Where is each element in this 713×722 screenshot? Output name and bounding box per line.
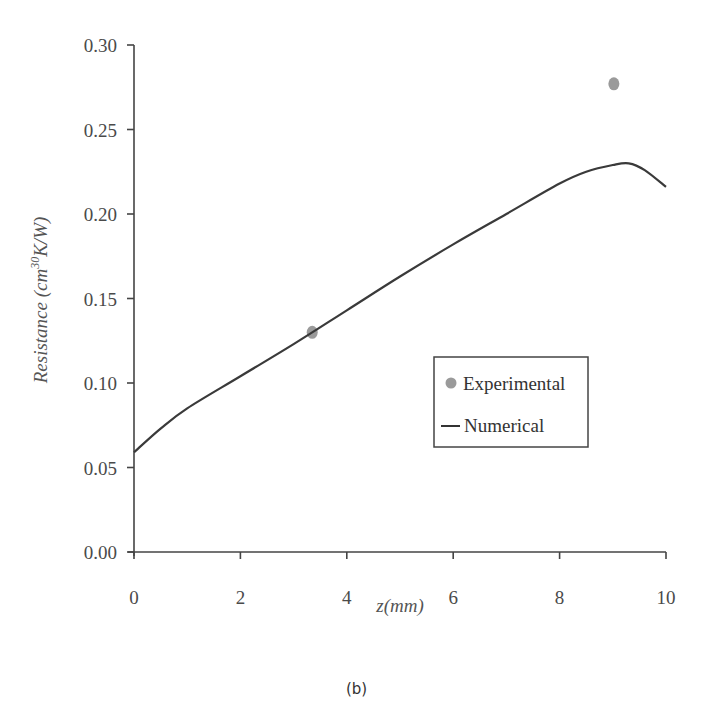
y-tick-label: 0.05 (84, 458, 117, 479)
y-tick-label: 0.15 (84, 289, 117, 310)
experimental-point (608, 77, 619, 90)
x-axis-title: z(mm) (375, 595, 424, 617)
legend-label-numerical: Numerical (464, 415, 544, 436)
y-tick-label: 0.30 (84, 35, 117, 56)
y-tick-label: 0.20 (84, 204, 117, 225)
x-tick-label: 6 (448, 587, 458, 608)
y-tick-label: 0.10 (84, 373, 117, 394)
x-tick-label: 2 (236, 587, 246, 608)
y-axis-title: Resistance (cm30K/W) (28, 217, 52, 385)
figure-caption: (b) (0, 680, 713, 698)
y-tick-label: 0.00 (84, 542, 117, 563)
chart: 0.000.050.100.150.200.250.30 0246810 Res… (0, 0, 713, 722)
y-axis: 0.000.050.100.150.200.250.30 (84, 35, 134, 563)
experimental-dot-icon (446, 378, 457, 389)
x-tick-label: 0 (129, 587, 139, 608)
legend-label-experimental: Experimental (463, 373, 565, 394)
x-tick-label: 4 (342, 587, 352, 608)
y-tick-label: 0.25 (84, 120, 117, 141)
x-tick-label: 8 (555, 587, 565, 608)
x-tick-label: 10 (657, 587, 676, 608)
legend: Experimental Numerical (434, 357, 588, 447)
